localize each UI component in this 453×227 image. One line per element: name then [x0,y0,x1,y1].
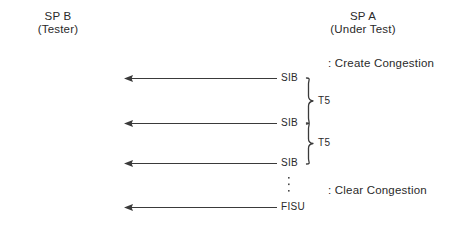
message-arrow-2 [118,117,283,130]
actor-left-role: (Tester) [10,23,106,36]
message-arrow-4 [118,201,283,214]
annotation-clear-congestion: : Clear Congestion [328,184,427,197]
actor-right-name: SP A [315,10,411,23]
message-arrow-1 [118,72,283,85]
message-arrow-3 [118,157,283,170]
message-label-4: FISU [281,201,305,213]
sequence-diagram: SP B (Tester) SP A (Under Test) SIB SIB … [0,0,453,227]
actor-header-right: SP A (Under Test) [315,10,411,36]
actor-right-role: (Under Test) [315,23,411,36]
actor-left-name: SP B [10,10,106,23]
timer-label-1: T5 [318,95,330,107]
timer-label-2: T5 [318,137,330,149]
actor-header-left: SP B (Tester) [10,10,106,36]
timer-brace-2 [303,119,319,168]
message-label-3: SIB [281,157,298,169]
continuation-ellipsis-icon [285,176,293,195]
annotation-create-congestion: : Create Congestion [328,57,434,70]
message-label-2: SIB [281,117,298,129]
message-label-1: SIB [281,72,298,84]
